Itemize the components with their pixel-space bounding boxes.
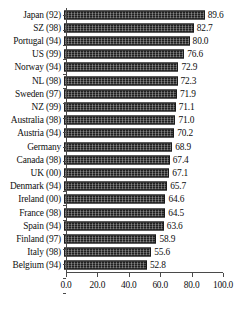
- x-axis-tick-label: 80.0: [184, 280, 200, 291]
- bar-row: France (98)64.5: [0, 206, 248, 219]
- bar: [64, 169, 169, 178]
- x-axis-tick: [223, 273, 224, 277]
- y-axis-tick: [63, 278, 66, 279]
- category-label: Germany: [0, 142, 64, 152]
- bar-value-label: 68.9: [175, 142, 191, 152]
- y-axis-tick: [63, 191, 66, 192]
- y-axis-tick: [63, 103, 66, 104]
- bar-value-label: 52.8: [150, 260, 166, 270]
- bar-track: 72.9: [64, 61, 248, 74]
- category-label: Denmark (94): [0, 181, 64, 191]
- bar-row: Finland (97)58.9: [0, 232, 248, 245]
- category-label: Italy (98): [0, 247, 64, 257]
- bar-track: 64.5: [64, 206, 248, 219]
- category-label: Spain (94): [0, 221, 64, 231]
- y-axis-tick: [63, 30, 66, 31]
- category-label: Sweden (97): [0, 89, 64, 99]
- category-label: Ireland (00): [0, 194, 64, 204]
- bar-track: 63.6: [64, 219, 248, 232]
- bar: [64, 50, 184, 59]
- bar: [64, 37, 190, 46]
- bar-row: Belgium (94)52.8: [0, 259, 248, 272]
- x-axis-tick: [66, 273, 67, 277]
- bar-row: Australia (98)71.0: [0, 114, 248, 127]
- y-axis-tick: [63, 234, 66, 235]
- chart-plot-area: Japan (92)89.6SZ (98)82.7Portugal (94)80…: [0, 8, 248, 272]
- x-axis-tick-label: 40.0: [121, 280, 137, 291]
- bar-value-label: 71.0: [178, 115, 194, 125]
- category-label: NL (98): [0, 76, 64, 86]
- y-axis-tick: [63, 205, 66, 206]
- x-axis-tick: [97, 273, 98, 277]
- bar-track: 67.4: [64, 153, 248, 166]
- y-axis-tick: [63, 45, 66, 46]
- bar-track: 70.2: [64, 127, 248, 140]
- y-axis-tick: [63, 147, 66, 148]
- category-label: Austria (94): [0, 128, 64, 138]
- bar-value-label: 64.6: [168, 194, 184, 204]
- y-axis-tick: [63, 220, 66, 221]
- bar-value-label: 71.1: [179, 102, 195, 112]
- x-axis-tick-label: 60.0: [152, 280, 168, 291]
- bar: [64, 221, 164, 230]
- x-axis-tick-label: 100.0: [213, 280, 233, 291]
- y-axis-tick: [63, 264, 66, 265]
- bar: [64, 103, 176, 112]
- bar-value-label: 82.7: [197, 23, 213, 33]
- category-label: Norway (94): [0, 62, 64, 72]
- bar-value-label: 64.5: [168, 208, 184, 218]
- bar: [64, 76, 178, 85]
- bar-track: 80.0: [64, 34, 248, 47]
- bar: [64, 129, 174, 138]
- bar-value-label: 55.6: [154, 247, 170, 257]
- category-label: UK (00): [0, 168, 64, 178]
- category-label: US (99): [0, 49, 64, 59]
- bar: [64, 155, 170, 164]
- bar-track: 76.6: [64, 48, 248, 61]
- x-axis-line: [66, 272, 223, 273]
- bar-value-label: 89.6: [208, 10, 224, 20]
- x-axis-tick-label: 0.0: [60, 280, 71, 291]
- bar-row: SZ (98)82.7: [0, 21, 248, 34]
- category-label: NZ (99): [0, 102, 64, 112]
- y-axis-line: [66, 8, 67, 273]
- bar: [64, 23, 194, 32]
- bar-row: Italy (98)55.6: [0, 246, 248, 259]
- category-label: Australia (98): [0, 115, 64, 125]
- y-axis-tick: [63, 132, 66, 133]
- x-axis-tick-label: 20.0: [90, 280, 106, 291]
- bar-track: 55.6: [64, 246, 248, 259]
- bar: [64, 182, 167, 191]
- bar-row: Ireland (00)64.6: [0, 193, 248, 206]
- category-label: Finland (97): [0, 234, 64, 244]
- y-axis-tick: [63, 293, 66, 294]
- bar-row: US (99)76.6: [0, 48, 248, 61]
- x-axis-tick: [129, 273, 130, 277]
- x-axis-tick: [160, 273, 161, 277]
- bar: [64, 10, 205, 19]
- bar-track: 52.8: [64, 259, 248, 272]
- bar: [64, 195, 165, 204]
- bar-track: 68.9: [64, 140, 248, 153]
- bar-value-label: 71.9: [180, 89, 196, 99]
- category-label: France (98): [0, 208, 64, 218]
- bar: [64, 235, 156, 244]
- bar-track: 71.9: [64, 87, 248, 100]
- category-label: Belgium (94): [0, 260, 64, 270]
- bar-track: 58.9: [64, 232, 248, 245]
- bar-row: Austria (94)70.2: [0, 127, 248, 140]
- bar-row: UK (00)67.1: [0, 166, 248, 179]
- x-axis-tick: [192, 273, 193, 277]
- bar: [64, 248, 151, 257]
- bar-row: Denmark (94)65.7: [0, 180, 248, 193]
- y-axis-tick: [63, 118, 66, 119]
- y-axis-tick: [63, 59, 66, 60]
- y-axis-tick: [63, 74, 66, 75]
- category-label: Portugal (94): [0, 36, 64, 46]
- bar-row: Portugal (94)80.0: [0, 34, 248, 47]
- bar-row: NL (98)72.3: [0, 74, 248, 87]
- bar: [64, 63, 178, 72]
- bar-row: Spain (94)63.6: [0, 219, 248, 232]
- bar-value-label: 63.6: [167, 221, 183, 231]
- category-label: Japan (92): [0, 10, 64, 20]
